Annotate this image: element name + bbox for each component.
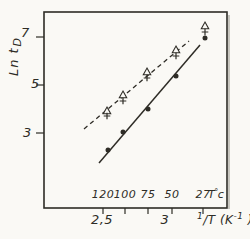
marker-plus bbox=[120, 98, 127, 105]
marker-filled-circle bbox=[146, 107, 151, 112]
y-axis-label-main: Ln t bbox=[6, 47, 21, 76]
marker-plus bbox=[144, 75, 151, 82]
temperature-tick-label: 100 bbox=[114, 189, 137, 200]
x-unit-end: ) bbox=[243, 213, 250, 227]
degree-icon: ° bbox=[214, 188, 219, 197]
marker-filled-circle bbox=[121, 130, 126, 135]
y-tick-label: 3 bbox=[23, 126, 32, 139]
plot-canvas bbox=[0, 0, 250, 239]
marker-open-triangle bbox=[119, 91, 126, 98]
temperature-tick-label: 75 bbox=[141, 189, 156, 200]
dashed-fit-line bbox=[84, 41, 189, 129]
marker-open-triangle bbox=[143, 68, 150, 75]
plot-frame bbox=[44, 12, 227, 208]
y-tick-label: 5 bbox=[31, 77, 40, 90]
temperature-tick-label: 120 bbox=[92, 189, 115, 200]
x-unit-mid: /T (K bbox=[203, 213, 233, 227]
marker-open-triangle bbox=[201, 22, 208, 29]
marker-filled-circle bbox=[174, 74, 179, 79]
temperature-tick-label: 50 bbox=[165, 189, 180, 200]
y-axis-label: Ln tD bbox=[6, 31, 22, 83]
marker-filled-circle bbox=[106, 148, 111, 153]
x-axis-unit-label: 1/T (K-1 ) bbox=[197, 212, 250, 226]
marker-filled-circle bbox=[203, 36, 208, 41]
marker-plus bbox=[173, 53, 180, 60]
marker-plus bbox=[202, 29, 209, 36]
y-tick-label: 7 bbox=[21, 26, 30, 39]
temperature-tick-label: 27 bbox=[196, 189, 211, 200]
solid-fit-line bbox=[99, 45, 200, 163]
x-unit-exponent: -1 bbox=[233, 211, 243, 221]
invT-tick-label: 3 bbox=[161, 213, 170, 226]
invT-tick-label: 2,5 bbox=[91, 213, 113, 226]
arrhenius-plot-figure: Ln tD T°c 1/T (K-1 ) 7531201007550272,53 bbox=[0, 0, 250, 239]
